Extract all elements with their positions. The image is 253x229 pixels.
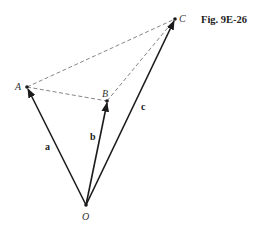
point-o-dot [84,203,88,207]
point-o-label: O [82,211,89,222]
vector-c-arrow [86,21,174,205]
vector-b-arrow [86,103,107,205]
dashed-segment-ac [27,19,175,87]
dashed-segment-ab [27,87,107,101]
vector-a-arrow [28,89,86,205]
point-c-dot [173,17,177,21]
vector-c-label: c [141,101,146,112]
vector-a-label: a [45,141,50,152]
point-b-dot [105,99,109,103]
figure-caption: Fig. 9E-26 [201,14,247,25]
vector-diagram: A B C O a b c Fig. 9E-26 [0,0,253,229]
point-a-label: A [14,81,22,92]
vector-b-label: b [90,131,96,142]
point-c-label: C [179,13,186,24]
point-a-dot [25,85,29,89]
point-b-label: B [102,88,108,99]
